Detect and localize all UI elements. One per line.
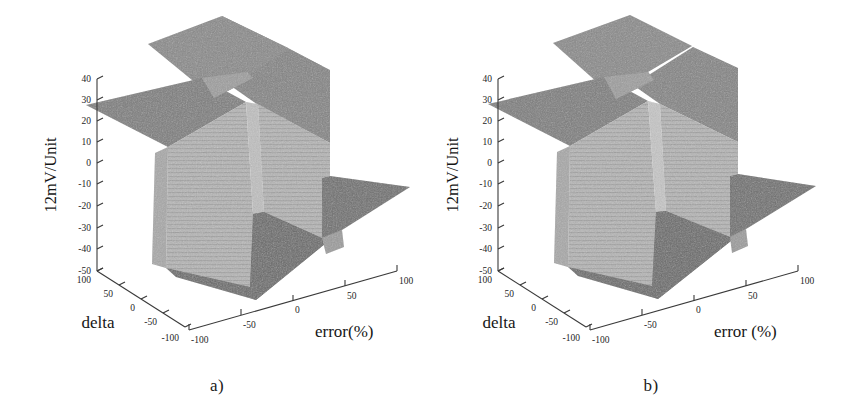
x-tick-label-b-0: -100: [592, 335, 610, 345]
z-tick-label-b-3: 10: [483, 137, 493, 147]
surface-plot-svg-a: 40 30 20 10 0 -10 -20 -30 -40 -50 12mV/U…: [0, 0, 434, 400]
surface-plot-panel-a: 40 30 20 10 0 -10 -20 -30 -40 -50 12mV/U…: [0, 0, 434, 400]
z-axis-label-b: 12mV/Unit: [443, 137, 462, 213]
surface-plateau-low-right-a: [322, 176, 410, 238]
z-tick-label-b-1: 30: [483, 95, 493, 105]
surface-plot-panel-b: 40 30 20 10 0 -10 -20 -30 -40 -50 12mV/U…: [434, 0, 868, 400]
z-tick-label-b-0: 40: [483, 74, 493, 84]
z-tick-label-b-2: 20: [483, 116, 493, 126]
z-tick-a-5: [97, 181, 103, 184]
panel-caption-b: b): [434, 376, 868, 396]
x-tick-label-b-3: 50: [748, 291, 758, 301]
y-tick-label-a-3: -50: [144, 317, 157, 327]
y-tick-b-1: [520, 282, 526, 285]
y-tick-a-4: [185, 324, 191, 327]
y-tick-a-2: [141, 296, 147, 299]
x-tick-label-b-4: 100: [800, 276, 815, 286]
z-tick-a-6: [97, 203, 103, 206]
y-tick-b-3: [564, 310, 570, 313]
z-tick-label-b-5: -10: [479, 179, 492, 189]
y-tick-label-b-2: 0: [531, 303, 536, 313]
surface-plot-svg-b: 40 30 20 10 0 -10 -20 -30 -40 -50 12mV/U…: [434, 0, 868, 400]
x-tick-label-b-2: 0: [696, 305, 701, 315]
panel-caption-a: a): [0, 376, 434, 396]
y-tick-label-b-3: -50: [545, 317, 558, 327]
y-tick-label-b-4: -100: [563, 333, 581, 343]
z-tick-label-a-7: -30: [78, 223, 91, 233]
z-tick-label-a-6: -20: [78, 201, 91, 211]
z-tick-a-7: [97, 225, 103, 228]
y-axis-label-a: delta: [81, 313, 114, 332]
z-tick-label-b-8: -40: [479, 244, 492, 254]
y-tick-label-b-1: 50: [505, 289, 515, 299]
x-tick-label-a-2: 0: [295, 305, 300, 315]
x-tick-label-a-1: -50: [243, 320, 256, 330]
x-axis-label-a: error(%): [315, 322, 374, 341]
z-tick-label-a-1: 30: [82, 95, 92, 105]
z-tick-label-a-4: 0: [86, 158, 91, 168]
surface-slope-left-edge-b: [554, 146, 570, 267]
z-tick-b-6: [498, 203, 504, 206]
y-tick-b-0: [498, 268, 504, 271]
z-tick-a-1: [97, 97, 103, 100]
z-tick-a-3: [97, 139, 103, 142]
x-tick-label-a-0: -100: [191, 335, 209, 345]
surface-plateau-low-right-b: [730, 174, 816, 237]
y-tick-a-0: [97, 268, 103, 271]
z-tick-label-b-4: 0: [487, 158, 492, 168]
z-tick-label-a-2: 20: [82, 116, 92, 126]
y-tick-b-4: [586, 324, 592, 327]
z-tick-b-5: [498, 181, 504, 184]
surface-slope-left-edge-a: [152, 147, 168, 268]
y-tick-label-a-4: -100: [162, 333, 180, 343]
z-tick-b-8: [498, 246, 504, 249]
z-tick-b-1: [498, 97, 504, 100]
y-axis-delta-a: 100 50 0 -50 -100 delta: [77, 268, 191, 343]
y-tick-label-a-1: 50: [104, 289, 114, 299]
figure-container: 40 30 20 10 0 -10 -20 -30 -40 -50 12mV/U…: [0, 0, 868, 400]
z-tick-a-8: [97, 246, 103, 249]
z-tick-b-2: [498, 118, 504, 121]
z-tick-label-a-0: 40: [82, 74, 92, 84]
z-tick-label-b-6: -20: [479, 201, 492, 211]
x-axis-label-b: error (%): [714, 322, 777, 341]
z-tick-b-4: [498, 160, 504, 163]
z-tick-a-2: [97, 118, 103, 121]
surface-mesh-b: [488, 15, 816, 299]
y-tick-label-b-0: 100: [478, 275, 493, 285]
y-tick-label-a-0: 100: [77, 275, 92, 285]
z-tick-label-a-5: -10: [78, 179, 91, 189]
z-tick-label-a-3: 10: [82, 137, 92, 147]
z-tick-label-a-8: -40: [78, 244, 91, 254]
y-axis-delta-b: 100 50 0 -50 -100 delta: [478, 268, 592, 343]
z-tick-label-b-7: -30: [479, 223, 492, 233]
z-tick-b-3: [498, 139, 504, 142]
x-tick-label-a-3: 50: [347, 291, 357, 301]
z-tick-b-7: [498, 225, 504, 228]
z-tick-a-0: [97, 76, 103, 79]
y-axis-label-b: delta: [482, 313, 515, 332]
y-tick-a-1: [119, 282, 125, 285]
z-axis-label-a: 12mV/Unit: [41, 137, 60, 213]
x-tick-label-a-4: 100: [399, 276, 414, 286]
surface-mesh-a: [86, 16, 410, 300]
z-tick-b-0: [498, 76, 504, 79]
y-tick-b-2: [542, 296, 548, 299]
z-tick-a-4: [97, 160, 103, 163]
y-tick-label-a-2: 0: [130, 303, 135, 313]
x-tick-label-b-1: -50: [644, 320, 657, 330]
y-tick-a-3: [163, 310, 169, 313]
